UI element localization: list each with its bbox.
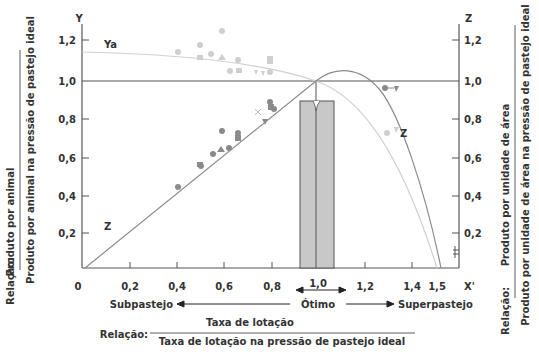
tick-label: 0,2 — [464, 228, 482, 239]
tick-label: 1,0 — [58, 76, 76, 87]
y-left-ticks — [82, 40, 89, 233]
tick-label: 1,2 — [58, 35, 76, 46]
tick-label: 0 — [75, 281, 82, 292]
x-relation-label: Relação: — [100, 329, 148, 340]
cross-marker — [255, 109, 261, 115]
y-right-ticks — [452, 40, 459, 258]
y-left-denominator: Produto por animal na pressão de pastejo… — [25, 16, 36, 284]
ya-data-points — [175, 28, 399, 136]
tick-label: 0,8 — [263, 281, 281, 292]
tick-label: 1,0 — [309, 278, 327, 289]
y-right-tick-labels: 1,2 1,0 0,8 0,6 0,4 0,2 — [464, 35, 482, 239]
y-right-numerator: Produto por unidade de área — [500, 104, 511, 267]
tick-label: 0,6 — [215, 281, 233, 292]
otimo-label: Ótimo — [301, 298, 335, 310]
subpastejo-label: Subpastejo — [110, 299, 173, 310]
ya-curve — [82, 52, 437, 268]
y-right-axis-name: Z — [465, 13, 472, 24]
y-right-denominator: Produto por unidade de área na pressão d… — [520, 4, 531, 325]
y-left-numerator: Produto por animal — [5, 168, 16, 277]
x-tick-labels: 0 0,2 0,4 0,6 0,8 1,0 1,2 1,4 1,5 — [75, 278, 446, 292]
z-curve-label-left: Z — [104, 221, 111, 232]
tick-label: 0,6 — [464, 153, 482, 164]
x-numerator: Taxa de lotação — [206, 317, 294, 328]
x-axis-name: X' — [464, 281, 475, 292]
tick-label: 0,4 — [464, 191, 482, 202]
tick-label: 1,2 — [464, 35, 482, 46]
tick-label: 0,2 — [58, 228, 76, 239]
z-curve — [85, 71, 441, 268]
subpastejo-arrow — [177, 301, 290, 307]
y-right-relation-label: Relação: — [500, 287, 511, 335]
z-data-points — [175, 85, 399, 190]
tick-label: 0,4 — [58, 191, 76, 202]
tick-label: 0,4 — [168, 281, 186, 292]
tick-label: 0,8 — [58, 114, 76, 125]
tick-label: 1,4 — [403, 281, 421, 292]
optimum-bar — [300, 81, 334, 268]
superpastejo-label: Superpastejo — [398, 299, 473, 310]
y-left-tick-labels: 1,2 1,0 0,8 0,6 0,4 0,2 — [58, 35, 76, 239]
tick-label: 1,0 — [464, 76, 482, 87]
tick-label: 0,8 — [464, 114, 482, 125]
superpastejo-arrow — [346, 301, 394, 307]
y-left-axis-name: Y — [74, 13, 83, 24]
tick-label: 0,2 — [121, 281, 139, 292]
x-denominator: Taxa de lotação na pressão de pastejo id… — [159, 336, 406, 347]
z-curve-label-right: Z — [400, 128, 407, 139]
ya-curve-label: Ya — [103, 39, 117, 50]
tick-label: 1,2 — [356, 281, 374, 292]
x-ticks — [130, 262, 412, 268]
tick-label: 1,5 — [428, 281, 446, 292]
tick-label: 0,6 — [58, 153, 76, 164]
chart-canvas: 1,2 1,0 0,8 0,6 0,4 0,2 1,2 1,0 0,8 0,6 … — [0, 0, 539, 362]
